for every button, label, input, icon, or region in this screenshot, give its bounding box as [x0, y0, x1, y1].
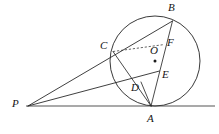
vertex-label-p: P — [12, 98, 19, 109]
segment-b-to-a — [151, 21, 173, 106]
segment-p-to-b — [28, 21, 173, 106]
vertex-label-c: C — [100, 40, 107, 51]
vertex-label-a: A — [147, 113, 154, 124]
segment-c-to-a — [113, 52, 151, 107]
center-point-dot — [154, 60, 157, 63]
vertex-label-e: E — [162, 69, 169, 80]
geometry-canvas — [0, 0, 219, 134]
vertex-label-b: B — [168, 2, 175, 13]
segment-p-to-e — [28, 71, 160, 106]
vertex-label-d: D — [131, 82, 139, 93]
geometry-figure: P A B C D E F O — [0, 0, 219, 134]
center-label-o: O — [150, 45, 158, 56]
vertex-label-f: F — [167, 37, 174, 48]
